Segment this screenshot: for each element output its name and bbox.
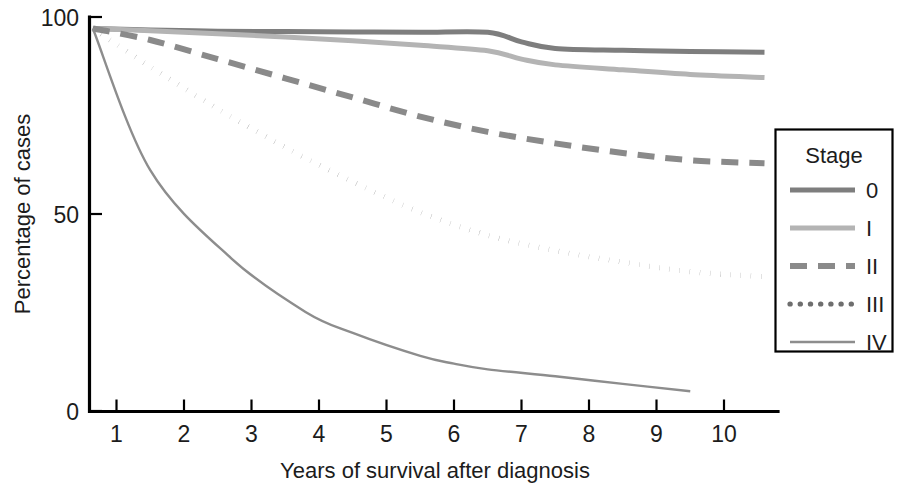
legend-label-stage-I: I xyxy=(866,216,872,241)
x-tick-label-1: 1 xyxy=(110,421,123,447)
x-tick-label-8: 8 xyxy=(583,421,596,447)
x-tick-label-5: 5 xyxy=(380,421,393,447)
x-tick-label-9: 9 xyxy=(650,421,663,447)
legend-label-stage-II: II xyxy=(866,254,878,279)
x-tick-label-6: 6 xyxy=(448,421,461,447)
x-tick-label-10: 10 xyxy=(711,421,737,447)
axis-spine-path xyxy=(90,17,779,412)
y-tick-label-50: 50 xyxy=(53,202,79,228)
x-axis-ticks xyxy=(117,400,725,412)
x-tick-label-2: 2 xyxy=(178,421,191,447)
chart-svg: 100 50 0 12345678910 Years of survival a… xyxy=(0,0,897,491)
legend: Stage 0IIIIIIIV xyxy=(776,130,893,356)
series-line-stage-IV xyxy=(93,28,690,391)
axes-spines xyxy=(90,17,779,412)
y-tick-label-100: 100 xyxy=(41,5,79,31)
data-series-group xyxy=(93,28,765,391)
x-tick-label-3: 3 xyxy=(245,421,258,447)
x-tick-label-7: 7 xyxy=(515,421,528,447)
x-axis-tick-labels: 12345678910 xyxy=(110,421,737,447)
x-axis-title: Years of survival after diagnosis xyxy=(280,458,590,483)
legend-label-stage-0: 0 xyxy=(866,178,878,203)
survival-curve-figure: 100 50 0 12345678910 Years of survival a… xyxy=(0,0,897,491)
legend-label-stage-IV: IV xyxy=(866,330,887,355)
y-axis-ticks xyxy=(90,17,103,411)
y-axis-title: Percentage of cases xyxy=(10,114,35,315)
y-tick-label-0: 0 xyxy=(66,399,79,425)
series-line-stage-III xyxy=(93,28,765,276)
legend-title: Stage xyxy=(805,143,863,168)
x-tick-label-4: 4 xyxy=(313,421,326,447)
legend-label-stage-III: III xyxy=(866,292,884,317)
y-axis-tick-labels: 100 50 0 xyxy=(41,5,79,425)
